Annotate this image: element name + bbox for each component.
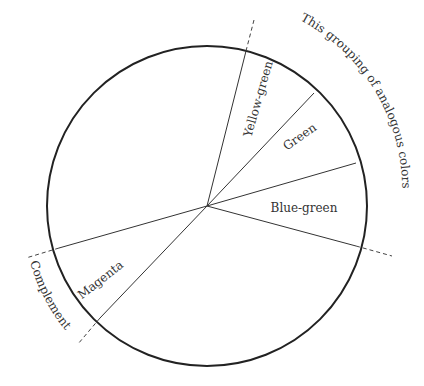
divider-green-bluegreen (207, 163, 356, 206)
annotation-analogous-text: This grouping of analogous colors (299, 10, 414, 188)
annotation-complement: Complement (27, 259, 74, 333)
dashed-extension-analogous-top (246, 20, 254, 51)
color-wheel-diagram: Yellow-green Green Blue-green Magenta Th… (0, 0, 424, 386)
annotation-analogous: This grouping of analogous colors (299, 10, 414, 188)
segment-label-yellow-green: Yellow-green (240, 59, 275, 140)
annotation-complement-text: Complement (27, 259, 74, 333)
divider-magenta-upper (59, 206, 207, 248)
segment-label-green: Green (280, 120, 319, 153)
segment-label-magenta: Magenta (75, 258, 126, 302)
divider-yellowgreen-left (207, 51, 246, 206)
segment-label-blue-green: Blue-green (271, 201, 338, 215)
